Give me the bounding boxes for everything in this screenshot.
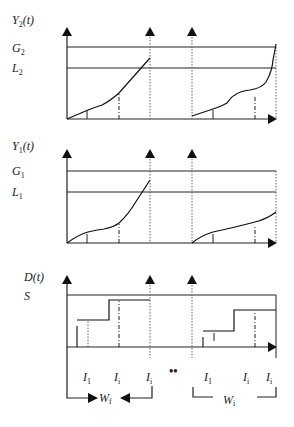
y2-axis-label: Y2(t) <box>12 13 34 29</box>
y2-divider-1-arrow-icon <box>145 27 155 36</box>
y2-axis-arrow-icon <box>62 27 72 36</box>
s-label: S <box>24 289 30 303</box>
y1-axis-arrow-icon <box>62 149 72 158</box>
d-step-2 <box>203 310 276 331</box>
y2-divider-2-arrow-icon <box>187 27 197 36</box>
y2-curve-1 <box>67 58 150 119</box>
window-i-bracket: Wi <box>193 387 276 408</box>
label-i1-left: I1 <box>82 370 91 386</box>
l2-label: L2 <box>11 61 23 77</box>
phase-diagram: Y2(t) G2 L2 Y1(t) G1 L1 <box>0 0 294 427</box>
d-axis-arrow-icon <box>62 275 72 284</box>
y2-curve-2 <box>192 44 276 116</box>
l1-label: L1 <box>11 185 23 201</box>
interval-labels: I1 Ii Ii •• I1 Ii Ii <box>82 364 273 386</box>
wf-left-arrow-icon <box>120 393 130 403</box>
wi-label: Wi <box>223 393 236 408</box>
d-axis-label: D(t) <box>23 270 44 284</box>
y1-divider-1-arrow-icon <box>145 149 155 158</box>
y2-x-axis-arrow-icon <box>268 114 277 124</box>
ellipsis: •• <box>169 364 177 378</box>
label-ii-left-2: Ii <box>145 370 153 386</box>
y1-curve-2 <box>192 212 276 243</box>
d-step-1 <box>77 300 150 320</box>
wf-right-arm <box>130 386 152 398</box>
window-f-bracket: Wf <box>67 347 152 406</box>
wf-label: Wf <box>99 391 112 406</box>
label-ii-right-2: Ii <box>265 370 273 386</box>
y1-divider-2-arrow-icon <box>187 149 197 158</box>
panel-d: D(t) S <box>23 270 277 358</box>
y1-curve-1 <box>67 180 150 243</box>
label-ii-right-1: Ii <box>242 370 250 386</box>
wi-right-arm <box>257 387 276 397</box>
g2-label: G2 <box>12 41 25 57</box>
panel-y1: Y1(t) G1 L1 <box>11 139 277 248</box>
wi-left-arm <box>193 387 213 397</box>
y1-x-axis-arrow-icon <box>268 238 277 248</box>
panel-y2: Y2(t) G2 L2 <box>11 13 277 124</box>
d-divider-1-arrow-icon <box>145 275 155 284</box>
wf-right-arrow-icon <box>88 393 98 403</box>
y1-axis-label: Y1(t) <box>12 139 34 155</box>
g1-label: G1 <box>12 164 25 180</box>
label-ii-left-1: Ii <box>113 370 121 386</box>
d-divider-2-arrow-icon <box>187 275 197 284</box>
label-i1-right: I1 <box>203 370 212 386</box>
